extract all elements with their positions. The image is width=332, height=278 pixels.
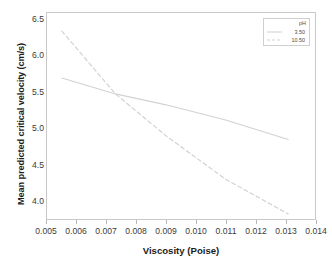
y-tick-label: 4.5 (18, 160, 44, 171)
x-tick-mark (166, 220, 167, 224)
legend-entry-label: 3.50 (283, 28, 306, 36)
x-tick-mark (136, 220, 137, 224)
x-axis-tick-labels: 0.0050.0060.0070.0080.0090.0100.0110.012… (0, 225, 327, 238)
x-tick-mark (316, 220, 317, 224)
x-tick-mark (256, 220, 257, 224)
legend-entry: 10.50 (266, 36, 306, 44)
x-tick-mark (46, 220, 47, 224)
legend-line-sample (266, 29, 283, 35)
x-tick-mark (226, 220, 227, 224)
x-tick-mark (286, 220, 287, 224)
series-line-3-50 (62, 78, 288, 139)
legend-title: pH (266, 20, 306, 27)
cropped-caption (0, 271, 327, 278)
y-tick-label: 4.0 (18, 196, 44, 207)
y-axis-tick-labels: 4.04.55.05.56.06.5 (18, 12, 44, 220)
x-tick-mark (76, 220, 77, 224)
y-tick-label: 5.0 (18, 123, 44, 134)
legend-entry-label: 10.50 (283, 36, 306, 44)
x-tick-mark (106, 220, 107, 224)
legend-entry: 3.50 (266, 28, 306, 36)
x-tick-mark (196, 220, 197, 224)
x-tick-label: 0.014 (296, 225, 332, 238)
x-axis-title: Viscosity (Poise) (46, 244, 316, 258)
series-line-10-50 (62, 31, 288, 214)
legend-entries: 3.5010.50 (266, 28, 306, 45)
y-tick-label: 5.5 (18, 87, 44, 98)
legend: pH 3.5010.50 (263, 18, 310, 46)
y-tick-label: 6.5 (18, 14, 44, 25)
legend-line-sample (266, 37, 283, 43)
y-tick-label: 6.0 (18, 50, 44, 61)
